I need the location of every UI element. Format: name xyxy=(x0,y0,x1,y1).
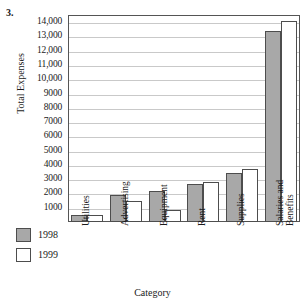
y-tick-label: 4000 xyxy=(44,160,62,170)
y-tick-label: 7000 xyxy=(44,117,62,127)
y-tick-label: 1000 xyxy=(44,203,62,213)
y-tick-label: 5000 xyxy=(44,146,62,156)
gray-filled-square-icon xyxy=(16,228,31,242)
x-tick-label: Salaries andBenefits xyxy=(276,180,296,226)
y-tick-label: 12,000 xyxy=(37,46,62,56)
y-tick-label: 10,000 xyxy=(37,74,62,84)
y-tick-label: 14,000 xyxy=(37,17,62,27)
y-axis-tick-labels: 10002000300040005000600070008000900010,0… xyxy=(0,15,66,222)
x-tick-label: Advertising xyxy=(121,181,131,226)
x-tick-label: Supplies xyxy=(237,193,247,226)
x-tick-label-line: Rent xyxy=(197,208,207,226)
y-tick-label: 3000 xyxy=(44,174,62,184)
y-tick-label: 2000 xyxy=(44,189,62,199)
x-axis-title: Category xyxy=(0,287,305,298)
bar-chart-figure: 3. 1000200030004000500060007000800090001… xyxy=(0,0,305,306)
bar-group xyxy=(226,15,258,222)
x-tick-label-line: Supplies xyxy=(236,193,246,226)
y-tick-label: 9000 xyxy=(44,89,62,99)
x-tick-label-line: Advertising xyxy=(120,181,130,226)
legend-item-1998: 1998 xyxy=(16,228,58,242)
bar-group xyxy=(71,15,103,222)
legend-item-1999: 1999 xyxy=(16,248,58,262)
x-tick-label: Rent xyxy=(198,208,208,226)
x-tick-label-line: Benefits xyxy=(286,180,296,226)
y-tick-label: 8000 xyxy=(44,103,62,113)
x-tick-label-line: Salaries and xyxy=(275,180,285,226)
y-axis-title: Total Expenses xyxy=(15,34,26,134)
x-tick-label: Equipment xyxy=(160,184,170,226)
legend-label: 1999 xyxy=(38,250,58,260)
chart-legend: 19981999 xyxy=(16,228,58,268)
x-tick-label-line: Utilities xyxy=(81,195,91,226)
legend-label: 1998 xyxy=(38,230,58,240)
x-tick-label: Utilities xyxy=(82,195,92,226)
x-tick-label-line: Equipment xyxy=(159,184,169,226)
y-tick-label: 6000 xyxy=(44,132,62,142)
y-tick-label: 11,000 xyxy=(37,60,62,70)
white-empty-square-icon xyxy=(16,248,31,262)
bar-group xyxy=(187,15,219,222)
y-tick-label: 13,000 xyxy=(37,32,62,42)
bars-layer xyxy=(68,15,300,222)
